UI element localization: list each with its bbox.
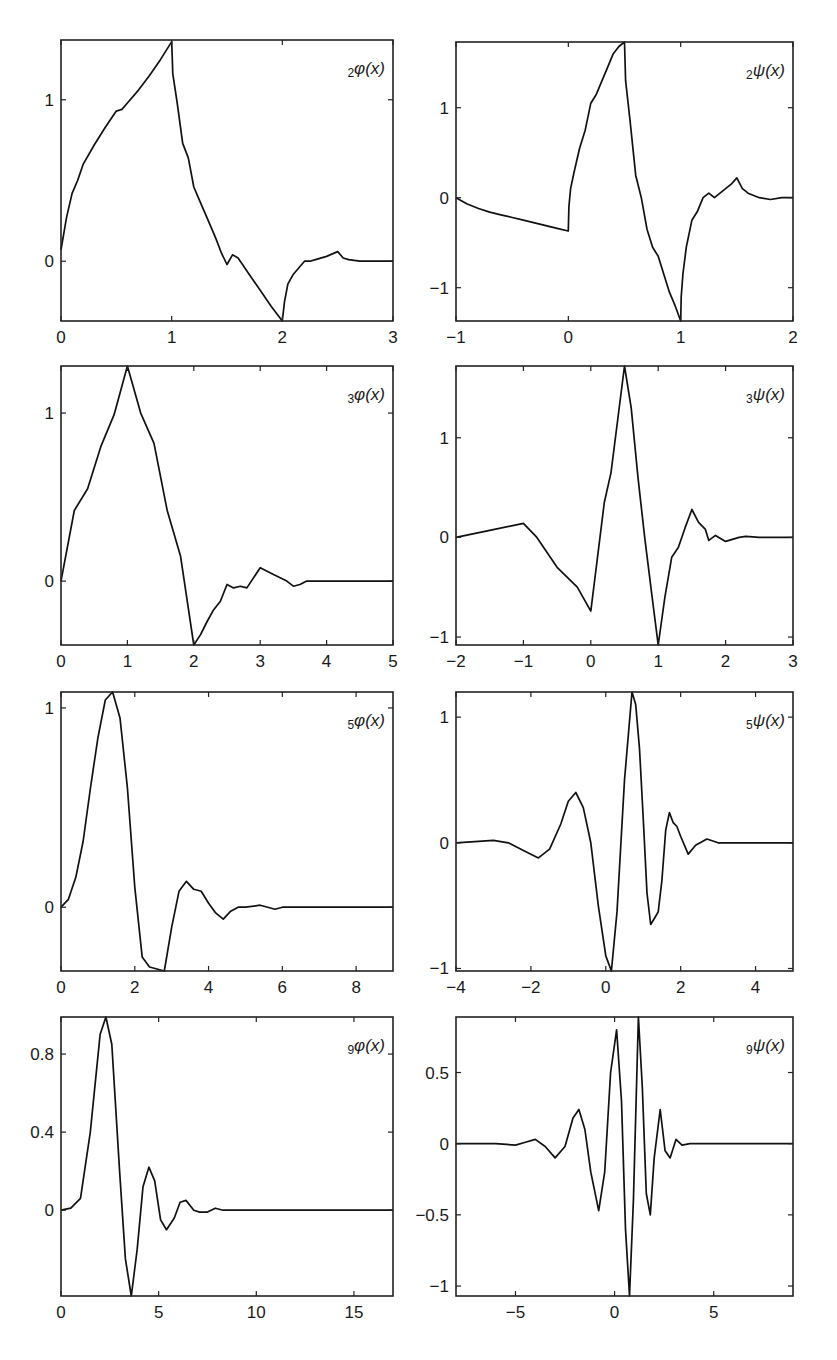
x-tick-label: 3 bbox=[788, 652, 797, 671]
x-tick-label: 0 bbox=[610, 1303, 619, 1322]
x-tick-label: 2 bbox=[788, 328, 797, 347]
x-tick-label: 0 bbox=[586, 652, 595, 671]
y-tick-label: 0 bbox=[45, 572, 54, 591]
x-tick-label: −1 bbox=[446, 328, 465, 347]
y-tick-label: 0.4 bbox=[30, 1123, 54, 1142]
y-tick-label: 0 bbox=[440, 1135, 449, 1154]
y-tick-label: 0 bbox=[45, 898, 54, 917]
y-tick-label: −1 bbox=[430, 628, 449, 647]
x-tick-label: 5 bbox=[154, 1303, 163, 1322]
x-tick-label: −1 bbox=[514, 652, 533, 671]
function-label: 3φ(x) bbox=[347, 385, 385, 406]
x-tick-label: 0 bbox=[601, 978, 610, 997]
x-tick-label: 4 bbox=[322, 652, 331, 671]
data-curve bbox=[61, 1017, 393, 1296]
x-tick-label: 6 bbox=[278, 978, 287, 997]
x-tick-label: 8 bbox=[351, 978, 360, 997]
function-label: 2ψ(x) bbox=[746, 61, 785, 82]
y-tick-label: −1 bbox=[430, 959, 449, 978]
x-tick-label: 10 bbox=[247, 1303, 266, 1322]
y-tick-label: 1 bbox=[45, 404, 54, 423]
plot-area: −505−1−0.500.59ψ(x) bbox=[456, 1017, 793, 1296]
x-tick-label: 4 bbox=[751, 978, 760, 997]
axes-frame bbox=[456, 692, 793, 971]
data-curve bbox=[456, 366, 793, 645]
x-tick-label: 1 bbox=[123, 652, 132, 671]
axes-frame bbox=[456, 366, 793, 645]
data-curve bbox=[456, 692, 793, 971]
x-tick-label: 1 bbox=[676, 328, 685, 347]
x-tick-label: 0 bbox=[56, 1303, 65, 1322]
x-tick-label: 4 bbox=[204, 978, 213, 997]
x-tick-label: 2 bbox=[189, 652, 198, 671]
panel-phi9: 05101500.40.89φ(x) bbox=[61, 1017, 393, 1296]
y-tick-label: −1 bbox=[430, 1277, 449, 1296]
data-curve bbox=[61, 366, 393, 645]
y-tick-label: 0 bbox=[440, 528, 449, 547]
plot-area: 02468015φ(x) bbox=[61, 692, 393, 971]
x-tick-label: 2 bbox=[676, 978, 685, 997]
x-tick-label: 0 bbox=[56, 328, 65, 347]
y-tick-label: 0 bbox=[440, 189, 449, 208]
x-tick-label: 2 bbox=[130, 978, 139, 997]
y-tick-label: 0 bbox=[440, 834, 449, 853]
y-tick-label: 1 bbox=[440, 429, 449, 448]
x-tick-label: −4 bbox=[446, 978, 465, 997]
plot-area: −4−2024−1015ψ(x) bbox=[456, 692, 793, 971]
y-tick-label: 0 bbox=[45, 1201, 54, 1220]
panel-phi5: 02468015φ(x) bbox=[61, 692, 393, 971]
axes-frame bbox=[456, 1017, 793, 1296]
data-curve bbox=[61, 42, 393, 321]
x-tick-label: 5 bbox=[388, 652, 397, 671]
function-label: 5ψ(x) bbox=[746, 711, 785, 732]
data-curve bbox=[61, 692, 393, 971]
data-curve bbox=[456, 42, 793, 321]
plot-area: 012345013φ(x) bbox=[61, 366, 393, 645]
x-tick-label: 15 bbox=[344, 1303, 363, 1322]
y-tick-label: −1 bbox=[430, 279, 449, 298]
x-tick-label: −5 bbox=[506, 1303, 525, 1322]
x-tick-label: 1 bbox=[653, 652, 662, 671]
x-tick-label: 3 bbox=[388, 328, 397, 347]
x-tick-label: 3 bbox=[255, 652, 264, 671]
panel-psi9: −505−1−0.500.59ψ(x) bbox=[456, 1017, 793, 1296]
plot-area: 05101500.40.89φ(x) bbox=[61, 1017, 393, 1296]
function-label: 2φ(x) bbox=[347, 59, 385, 80]
axes-frame bbox=[61, 366, 393, 645]
x-tick-label: 1 bbox=[167, 328, 176, 347]
plot-area: −1012−1012ψ(x) bbox=[456, 42, 793, 321]
x-tick-label: 0 bbox=[564, 328, 573, 347]
y-tick-label: 0.8 bbox=[30, 1045, 54, 1064]
x-tick-label: 5 bbox=[709, 1303, 718, 1322]
x-tick-label: −2 bbox=[446, 652, 465, 671]
x-tick-label: 2 bbox=[278, 328, 287, 347]
x-tick-label: 0 bbox=[56, 978, 65, 997]
function-label: 3ψ(x) bbox=[746, 385, 785, 406]
y-tick-label: 1 bbox=[440, 708, 449, 727]
y-tick-label: 0 bbox=[45, 252, 54, 271]
panel-psi5: −4−2024−1015ψ(x) bbox=[456, 692, 793, 971]
panel-phi2: 0123012φ(x) bbox=[61, 40, 393, 321]
axes-frame bbox=[61, 692, 393, 971]
x-tick-label: 2 bbox=[721, 652, 730, 671]
x-tick-label: −2 bbox=[521, 978, 540, 997]
y-tick-label: 1 bbox=[45, 91, 54, 110]
plot-area: 0123012φ(x) bbox=[61, 40, 393, 321]
x-tick-label: 0 bbox=[56, 652, 65, 671]
axes-frame bbox=[61, 1017, 393, 1296]
axes-frame bbox=[456, 42, 793, 321]
axes-frame bbox=[61, 40, 393, 321]
panel-phi3: 012345013φ(x) bbox=[61, 366, 393, 645]
plot-area: −2−10123−1013ψ(x) bbox=[456, 366, 793, 645]
y-tick-label: −0.5 bbox=[415, 1206, 449, 1225]
function-label: 9φ(x) bbox=[347, 1036, 385, 1057]
y-tick-label: 0.5 bbox=[425, 1064, 449, 1083]
y-tick-label: 1 bbox=[45, 699, 54, 718]
panel-psi2: −1012−1012ψ(x) bbox=[456, 42, 793, 321]
data-curve bbox=[456, 1017, 793, 1296]
function-label: 5φ(x) bbox=[347, 711, 385, 732]
function-label: 9ψ(x) bbox=[746, 1036, 785, 1057]
y-tick-label: 1 bbox=[440, 99, 449, 118]
panel-psi3: −2−10123−1013ψ(x) bbox=[456, 366, 793, 645]
